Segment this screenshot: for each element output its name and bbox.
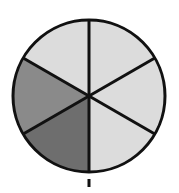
bottom-tick-mark [88, 179, 91, 187]
fraction-circle-diagram [0, 0, 179, 193]
figure-container [0, 0, 179, 193]
